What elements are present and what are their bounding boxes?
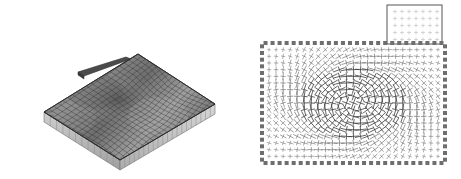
boundary-node: [443, 91, 447, 95]
boundary-node: [313, 41, 317, 45]
boundary-node: [334, 161, 338, 165]
boundary-node: [260, 111, 264, 115]
boundary-node: [292, 41, 296, 45]
boundary-node: [355, 41, 359, 45]
boundary-node: [404, 41, 408, 45]
boundary-node: [383, 41, 387, 45]
boundary-node: [443, 58, 447, 62]
boundary-node: [404, 161, 408, 165]
boundary-node: [292, 161, 296, 165]
boundary-node: [278, 161, 282, 165]
principal-direction-cross-plot: [230, 0, 461, 179]
boundary-node: [443, 138, 447, 142]
boundary-node: [260, 58, 264, 62]
boundary-node: [390, 41, 394, 45]
boundary-node: [443, 151, 447, 155]
cross-field-svg: [230, 0, 461, 179]
boundary-node: [443, 64, 447, 68]
boundary-node: [383, 161, 387, 165]
boundary-node: [278, 41, 282, 45]
boundary-node: [299, 161, 303, 165]
boundary-node: [443, 111, 447, 115]
boundary-node: [443, 104, 447, 108]
boundary-node: [432, 161, 436, 165]
boundary-node: [260, 144, 264, 148]
boundary-node: [260, 151, 264, 155]
boundary-node: [299, 41, 303, 45]
boundary-node: [443, 124, 447, 128]
boundary-node: [320, 161, 324, 165]
boundary-node: [443, 158, 447, 162]
boundary-node: [260, 51, 264, 55]
boundary-node: [418, 41, 422, 45]
boundary-node: [306, 161, 310, 165]
boundary-node: [397, 41, 401, 45]
boundary-node: [439, 161, 443, 165]
boundary-node: [443, 131, 447, 135]
boundary-node: [390, 161, 394, 165]
boundary-node: [376, 41, 380, 45]
boundary-node: [443, 118, 447, 122]
boundary-node: [443, 144, 447, 148]
boundary-node: [260, 84, 264, 88]
boundary-node: [327, 161, 331, 165]
boundary-node: [397, 161, 401, 165]
boundary-node: [260, 131, 264, 135]
boundary-node: [362, 41, 366, 45]
boundary-node: [260, 138, 264, 142]
boundary-node: [260, 158, 264, 162]
cross-field-group: [260, 41, 447, 165]
boundary-node: [264, 161, 268, 165]
boundary-node: [443, 51, 447, 55]
boundary-node: [341, 161, 345, 165]
boundary-node: [369, 161, 373, 165]
boundary-node: [376, 161, 380, 165]
boundary-node: [334, 41, 338, 45]
boundary-node: [260, 91, 264, 95]
boundary-node: [443, 44, 447, 48]
boundary-node: [264, 41, 268, 45]
plate-top-surface: [44, 54, 215, 163]
boundary-node: [425, 41, 429, 45]
boundary-node: [271, 41, 275, 45]
boundary-node: [327, 41, 331, 45]
boundary-node: [432, 41, 436, 45]
boundary-node: [320, 41, 324, 45]
boundary-node: [313, 161, 317, 165]
boundary-node: [260, 98, 264, 102]
boundary-node: [271, 161, 275, 165]
boundary-node: [260, 71, 264, 75]
deformed-plate-3d-mesh: [0, 0, 230, 179]
boundary-node: [355, 161, 359, 165]
boundary-node: [443, 78, 447, 82]
boundary-node: [411, 41, 415, 45]
boundary-node: [348, 41, 352, 45]
inset-detail-box: [387, 5, 442, 44]
boundary-node: [425, 161, 429, 165]
boundary-node: [285, 161, 289, 165]
boundary-node: [260, 78, 264, 82]
plate-svg: [0, 0, 230, 179]
boundary-node: [369, 41, 373, 45]
boundary-node: [443, 71, 447, 75]
boundary-node: [341, 41, 345, 45]
boundary-node: [260, 44, 264, 48]
boundary-node: [443, 84, 447, 88]
boundary-node: [260, 104, 264, 108]
boundary-node: [260, 64, 264, 68]
boundary-node: [260, 118, 264, 122]
boundary-node: [443, 98, 447, 102]
boundary-node: [285, 41, 289, 45]
boundary-node: [411, 161, 415, 165]
boundary-node: [418, 161, 422, 165]
figure-root: [0, 0, 461, 179]
boundary-node: [439, 41, 443, 45]
boundary-node: [362, 161, 366, 165]
boundary-node: [348, 161, 352, 165]
boundary-node: [260, 124, 264, 128]
boundary-node: [306, 41, 310, 45]
